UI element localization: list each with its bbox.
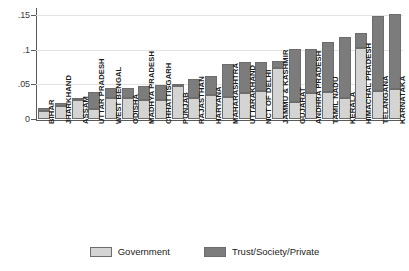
stacked-bar-chart: 0.05.1.15 BIHARJHARKHANDASSAMUTTAR PRADE… <box>0 0 409 271</box>
x-tick-label: UTTAR PRADESH <box>97 58 106 124</box>
legend-item: Government <box>90 246 170 257</box>
x-tick-label: UTTARAKHAND <box>248 65 257 124</box>
x-tick-label: JAMMU & KASHMIR <box>281 50 290 124</box>
x-tick-label: JHARKHAND <box>64 75 73 124</box>
bar-segment-trust-society-private <box>339 37 351 98</box>
x-tick-label: TAMIL NADU <box>331 76 340 124</box>
legend-swatch <box>90 247 112 257</box>
x-tick-label: GUJARAT <box>298 87 307 124</box>
chart-legend: GovernmentTrust/Society/Private <box>0 246 409 257</box>
x-tick-label: RAJASTHAN <box>197 76 206 124</box>
y-tick-mark <box>31 119 36 120</box>
y-tick-mark <box>31 15 36 16</box>
x-tick-label: ASSAM <box>81 96 90 124</box>
x-tick-label: PUNJAB <box>181 92 190 124</box>
x-tick-label: HARYANA <box>214 86 223 124</box>
x-tick-label: BIHAR <box>47 99 56 124</box>
legend-item: Trust/Society/Private <box>204 246 319 257</box>
legend-label: Trust/Society/Private <box>232 246 319 257</box>
gridline <box>36 15 403 16</box>
x-tick-label: MADHYA PRADESH <box>147 51 156 124</box>
legend-swatch <box>204 247 226 257</box>
y-tick-label: 0 <box>25 114 30 124</box>
y-tick-label: .05 <box>18 79 30 89</box>
bar-segment-trust-society-private <box>172 84 184 87</box>
x-tick-label: MAHARASHTRA <box>231 63 240 124</box>
x-tick-label: CHHATTISGARH <box>164 63 173 124</box>
x-tick-label: WEST BENGAL <box>114 67 123 124</box>
x-tick-label: KARNATAKA <box>398 76 407 124</box>
y-tick-label: .15 <box>18 10 30 20</box>
y-tick-label: .1 <box>23 45 30 55</box>
y-tick-mark <box>31 84 36 85</box>
x-tick-label: ODISHA <box>131 94 140 124</box>
x-tick-label: NCT OF DELHI <box>264 70 273 124</box>
x-tick-label: HIMACHAL PRADESH <box>364 43 373 124</box>
y-tick-mark <box>31 50 36 51</box>
x-tick-label: KERALA <box>348 92 357 124</box>
legend-label: Government <box>118 246 170 257</box>
x-tick-label: TELANGANA <box>381 75 390 124</box>
x-tick-label: ANDHRA PRADESH <box>314 51 323 124</box>
